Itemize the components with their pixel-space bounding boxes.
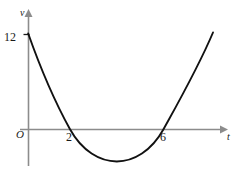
velocity-time-graph-figure: v t O 12 2 6 <box>0 0 240 169</box>
y-tick-label-12: 12 <box>4 31 16 43</box>
x-tick-label-6: 6 <box>160 131 166 143</box>
parabola-curve <box>28 33 213 162</box>
x-tick-label-2: 2 <box>66 131 72 143</box>
plot-canvas <box>0 0 240 169</box>
x-axis-label: t <box>227 132 230 142</box>
origin-label: O <box>16 129 24 140</box>
y-axis-arrowhead <box>25 9 33 17</box>
y-axis-label: v <box>20 8 24 18</box>
